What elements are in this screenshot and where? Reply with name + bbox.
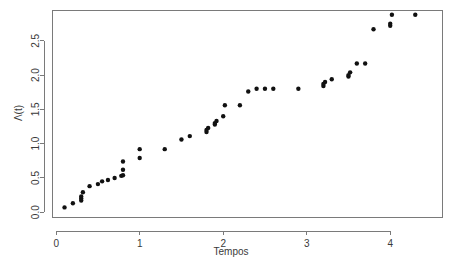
data-point — [206, 126, 210, 130]
data-point — [112, 176, 116, 180]
data-point — [238, 103, 242, 107]
data-point — [388, 22, 392, 26]
data-points-layer — [62, 13, 417, 210]
data-point — [371, 27, 375, 31]
y-tick-label: 0.5 — [31, 171, 42, 185]
data-point — [79, 194, 83, 198]
data-point — [96, 182, 100, 186]
data-point — [263, 87, 267, 91]
data-point — [363, 61, 367, 65]
data-point — [254, 87, 258, 91]
data-point — [214, 119, 218, 123]
data-point — [223, 103, 227, 107]
y-tick-label: 2.0 — [31, 68, 42, 82]
data-point — [100, 179, 104, 183]
data-point — [390, 13, 394, 17]
plot-frame — [52, 10, 442, 217]
data-point — [137, 147, 141, 151]
x-axis-title: Tempos — [213, 246, 248, 257]
x-tick-label: 1 — [137, 238, 143, 249]
data-point — [121, 159, 125, 163]
data-point — [246, 89, 250, 93]
data-point — [62, 205, 66, 209]
data-point — [106, 178, 110, 182]
y-axis: 0.00.51.01.52.02.5 — [31, 33, 45, 219]
data-point — [179, 137, 183, 141]
data-point — [163, 147, 167, 151]
data-point — [121, 168, 125, 172]
data-point — [355, 61, 359, 65]
x-tick-label: 0 — [53, 238, 59, 249]
data-point — [137, 156, 141, 160]
data-point — [323, 80, 327, 84]
data-point — [81, 190, 85, 194]
y-tick-label: 2.5 — [31, 33, 42, 47]
plot-border — [52, 10, 442, 217]
y-tick-label: 1.5 — [31, 102, 42, 116]
data-point — [87, 184, 91, 188]
data-point — [330, 77, 334, 81]
data-point — [296, 87, 300, 91]
x-tick-label: 3 — [304, 238, 310, 249]
y-tick-label: 1.0 — [31, 136, 42, 150]
y-tick-label: 0.0 — [31, 205, 42, 219]
data-point — [121, 173, 125, 177]
data-point — [348, 70, 352, 74]
x-tick-label: 4 — [387, 238, 393, 249]
data-point — [221, 114, 225, 118]
data-point — [271, 87, 275, 91]
data-point — [188, 134, 192, 138]
data-point — [413, 13, 417, 17]
scatter-plot-figure: 01234 0.00.51.01.52.02.5 Tempos Λ(t) — [0, 0, 455, 269]
plot-canvas: 01234 0.00.51.01.52.02.5 Tempos Λ(t) — [0, 0, 455, 269]
data-point — [71, 201, 75, 205]
y-axis-title: Λ(t) — [13, 105, 24, 121]
